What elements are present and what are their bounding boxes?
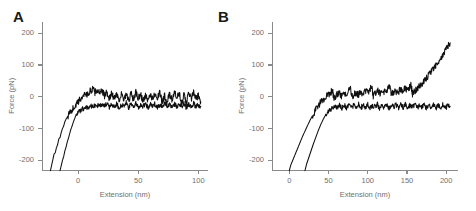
panel-b-letter: B	[218, 9, 229, 24]
y-tick-label: -200	[232, 156, 264, 164]
x-tick-label: 0	[273, 177, 305, 185]
x-tick-label: 100	[182, 177, 214, 185]
y-tick-label: -100	[232, 125, 264, 133]
x-tick-label: 200	[430, 177, 462, 185]
x-tick-label: 50	[122, 177, 154, 185]
trace-layer	[272, 22, 466, 176]
panel-a: A 2001000-100-200050100Force (pN)Extensi…	[0, 0, 238, 211]
trace-baseline-retract	[305, 102, 450, 171]
y-axis-title: Force (pN)	[238, 22, 246, 170]
x-tick-label: 150	[391, 177, 423, 185]
y-tick-label: -100	[2, 125, 34, 133]
panel-b: B 2001000-100-200050100150200Force (pN)E…	[238, 0, 476, 211]
panel-b-plot-area: 2001000-100-200050100150200Force (pN)Ext…	[272, 22, 458, 170]
y-tick-label: -200	[2, 156, 34, 164]
x-tick-label: 0	[62, 177, 94, 185]
panel-a-plot-area: 2001000-100-200050100Force (pN)Extension…	[42, 22, 208, 170]
y-tick-label: 200	[2, 29, 34, 37]
x-axis-title: Extension (nm)	[42, 191, 208, 199]
trace-layer	[42, 22, 216, 176]
y-axis-title: Force (pN)	[8, 22, 16, 170]
x-tick-label: 100	[352, 177, 384, 185]
trace-approach	[50, 86, 200, 170]
y-tick-label: 200	[232, 29, 264, 37]
y-tick-label: 100	[232, 61, 264, 69]
force-extension-figure: A 2001000-100-200050100Force (pN)Extensi…	[0, 0, 476, 211]
trace-retract	[60, 101, 201, 171]
x-tick-label: 50	[313, 177, 345, 185]
x-axis-title: Extension (nm)	[272, 191, 458, 199]
y-tick-label: 100	[2, 61, 34, 69]
